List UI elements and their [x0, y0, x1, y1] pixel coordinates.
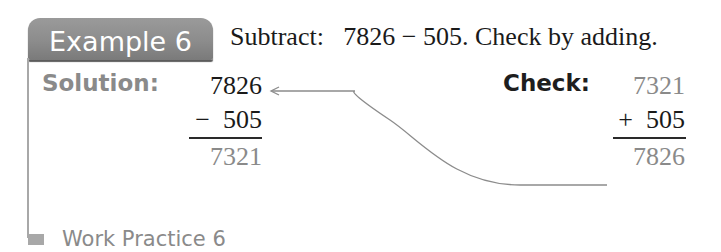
square-marker-icon: [28, 234, 44, 245]
curved-arrow-icon: [0, 0, 721, 252]
work-practice-label: Work Practice 6: [62, 227, 226, 251]
